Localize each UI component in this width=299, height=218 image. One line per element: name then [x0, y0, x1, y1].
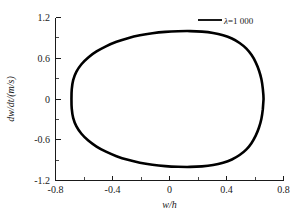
y-tick-label-3: -0.6 — [34, 134, 50, 145]
x-tick-label-1: -0.4 — [105, 184, 121, 195]
y-axis-title: dw/dt/(m/s) — [5, 76, 17, 122]
y-tick-label-0: 1.2 — [38, 12, 51, 23]
x-tick-label-4: 0.8 — [277, 184, 290, 195]
legend-value: =1 000 — [228, 16, 254, 26]
legend-label-0: λ=1 000 — [223, 16, 254, 26]
chart-figure: 1.2 0.6 0 -0.6 -1.2 -0.8 -0.4 0 0.4 0.8 … — [0, 0, 299, 218]
y-tick-label-2: 0 — [45, 94, 50, 105]
x-tick-label-3: 0.4 — [220, 184, 233, 195]
x-tick-label-0: -0.8 — [48, 184, 64, 195]
x-axis-title: w/h — [162, 199, 176, 210]
x-tick-label-2: 0 — [167, 184, 172, 195]
phase-portrait-chart: 1.2 0.6 0 -0.6 -1.2 -0.8 -0.4 0 0.4 0.8 … — [0, 0, 299, 218]
y-tick-label-1: 0.6 — [38, 53, 51, 64]
